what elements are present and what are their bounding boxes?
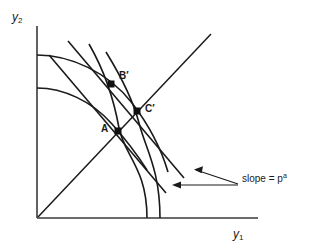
point-label-Cprime: C′	[145, 104, 155, 114]
annotation-arrowhead-upper	[194, 166, 203, 173]
point-marker-Cprime	[134, 108, 141, 115]
annotation-arrowhead-lower	[172, 182, 181, 189]
economics-diagram: y2 y1 A B′ C′ slope = pa	[0, 0, 310, 252]
point-label-A: A	[101, 124, 108, 134]
x-axis-label-subscript: 1	[239, 233, 243, 242]
annotation-leader-upper	[196, 170, 238, 184]
point-marker-Bprime	[108, 81, 115, 88]
y-axis-label-subscript: 2	[18, 16, 22, 25]
forty-five-degree-ray	[38, 34, 211, 217]
slope-annotation-label: slope = pa	[242, 172, 287, 184]
x-axis-label: y1	[233, 228, 243, 242]
point-label-Bprime: B′	[119, 71, 129, 81]
diagram-canvas	[0, 0, 310, 252]
annotation-arrows-group	[172, 166, 238, 188]
price-line-through-Bprime	[68, 41, 184, 178]
slope-annotation-text: slope = p	[242, 173, 283, 184]
point-marker-A	[115, 128, 122, 135]
axes-group	[37, 26, 258, 218]
y-axis-label: y2	[12, 11, 22, 25]
slope-annotation-superscript: a	[283, 172, 287, 179]
